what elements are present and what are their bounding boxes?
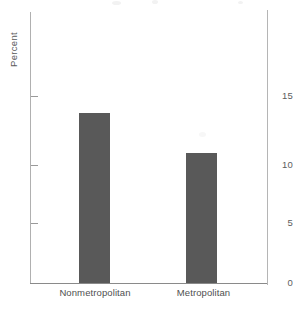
y-axis-title: Percent [8,24,19,76]
scan-artifact [112,1,121,5]
y-tick-mark-5 [31,223,38,224]
scan-artifact [199,132,206,137]
bar-metropolitan [186,153,217,283]
y-axis-line [30,12,31,284]
y-tick-label-15: 15 [267,91,293,101]
x-axis-line [30,283,267,284]
bar-nonmetropolitan [79,113,110,283]
y-tick-label-10: 10 [267,160,293,170]
scan-artifact [152,0,158,4]
plot-frame-right-border [267,10,268,285]
scan-artifact [238,1,243,4]
y-tick-label-0: 0 [267,278,293,288]
y-tick-mark-15 [31,96,38,97]
bar-chart-figure: Percent 15 10 5 0 Nonmetropolitan Metrop… [0,0,293,309]
y-tick-mark-10 [31,165,38,166]
y-tick-label-5: 5 [267,218,293,228]
x-tick-label-nonmetropolitan: Nonmetropolitan [35,288,155,298]
x-tick-label-metropolitan: Metropolitan [151,288,256,298]
